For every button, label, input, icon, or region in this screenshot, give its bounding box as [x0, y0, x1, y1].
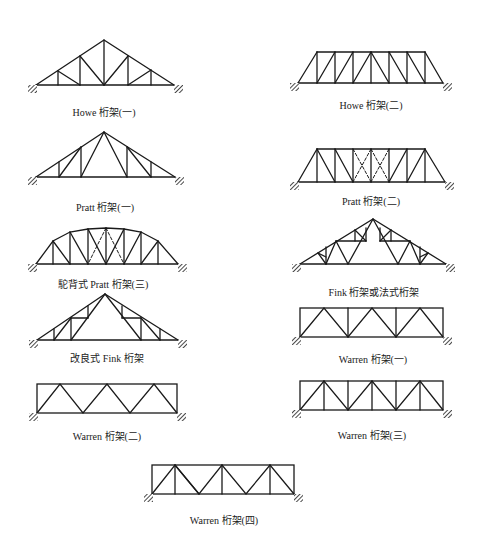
support-left-icon	[290, 182, 299, 190]
support-left-icon	[29, 413, 38, 421]
support-left-icon	[28, 85, 37, 93]
truss-fink	[292, 219, 455, 272]
support-right-icon	[177, 413, 186, 421]
support-left-icon	[292, 410, 301, 418]
support-left-icon	[28, 177, 37, 185]
truss-diagram: Howe 桁架(一) Howe 桁架(二) Pratt 桁架(一) Pratt …	[0, 0, 481, 553]
support-left-icon	[290, 83, 299, 91]
support-right-icon	[178, 340, 187, 348]
support-left-icon	[144, 494, 153, 502]
support-right-icon	[446, 264, 455, 272]
label-fink: Fink 桁架或法式桁架	[329, 284, 420, 299]
truss-howe-2	[290, 52, 452, 91]
label-modified-fink: 改良式 Fink 桁架	[70, 350, 143, 365]
label-warren-3: Warren 桁架(三)	[338, 427, 406, 442]
support-left-icon	[292, 264, 301, 272]
truss-pratt-2	[290, 149, 454, 190]
label-howe-2: Howe 桁架(二)	[339, 97, 402, 112]
label-howe-1: Howe 桁架(一)	[72, 104, 135, 119]
label-warren-2: Warren 桁架(二)	[73, 428, 141, 443]
truss-camelback-pratt	[28, 228, 187, 272]
truss-pratt-1	[28, 132, 184, 185]
truss-warren-3	[292, 381, 452, 418]
support-right-icon	[174, 85, 183, 93]
truss-howe-1	[28, 40, 183, 93]
support-right-icon	[443, 410, 452, 418]
support-right-icon	[443, 83, 452, 91]
label-warren-4: Warren 桁架(四)	[190, 512, 258, 527]
label-warren-1: Warren 桁架(一)	[339, 351, 407, 366]
truss-modified-fink	[29, 294, 187, 348]
label-camelback-pratt: 駝背式 Pratt 桁架(三)	[58, 276, 149, 291]
label-pratt-1: Pratt 桁架(一)	[76, 199, 134, 214]
support-right-icon	[175, 177, 184, 185]
support-right-icon	[178, 264, 187, 272]
support-right-icon	[294, 494, 303, 502]
label-pratt-2: Pratt 桁架(二)	[342, 193, 400, 208]
truss-warren-4	[144, 465, 303, 502]
truss-warren-1	[292, 308, 452, 345]
support-right-icon	[445, 182, 454, 190]
support-left-icon	[29, 340, 38, 348]
support-left-icon	[292, 337, 301, 345]
truss-warren-2	[29, 384, 186, 421]
support-left-icon	[28, 264, 37, 272]
support-right-icon	[443, 337, 452, 345]
